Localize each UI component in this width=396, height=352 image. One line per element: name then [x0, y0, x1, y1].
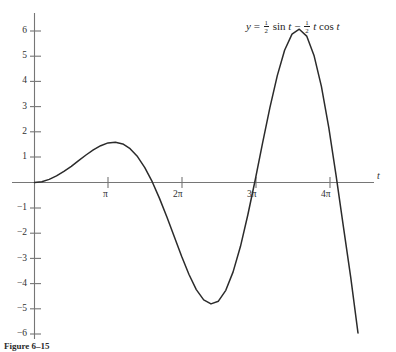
y-tick-label-neg-4: −4: [7, 278, 27, 288]
y-tick-label-5: 5: [14, 50, 27, 60]
y-tick-label-4: 4: [14, 75, 27, 85]
equation-half-1: 12: [264, 19, 269, 34]
x-tick-label-pi: π: [103, 189, 108, 199]
equation-annotation: y = 12 sin t − 12 t cos t: [246, 19, 340, 34]
equation-equals: =: [254, 20, 260, 32]
equation-minus: −: [294, 20, 300, 32]
function-curve: [35, 29, 359, 333]
equation-t3: t: [337, 20, 340, 32]
equation-half-2: 12: [304, 19, 309, 34]
y-tick-label-neg-2: −2: [7, 227, 27, 237]
figure-container: 6 5 4 3 2 1 −1 −2 −3 −4 −5 −6 π 2π 3π 4π…: [0, 0, 396, 352]
equation-t2: t: [313, 20, 316, 32]
figure-caption: Figure 6–15: [4, 341, 50, 351]
y-tick-label-neg-1: −1: [7, 202, 27, 212]
y-tick-label-3: 3: [14, 101, 27, 111]
equation-t1: t: [288, 20, 291, 32]
y-tick-label-2: 2: [14, 126, 27, 136]
x-tick-label-3pi: 3π: [247, 189, 257, 199]
y-tick-label-neg-5: −5: [7, 303, 27, 313]
y-tick-label-1: 1: [14, 151, 27, 161]
equation-y: y: [246, 20, 251, 32]
equation-cos: cos: [319, 20, 334, 32]
x-tick-label-2pi: 2π: [173, 189, 183, 199]
x-axis-label: t: [377, 170, 380, 181]
y-tick-label-neg-3: −3: [7, 253, 27, 263]
y-tick-label-6: 6: [14, 25, 27, 35]
plot-area: [0, 0, 396, 352]
y-tick-label-neg-6: −6: [7, 328, 27, 338]
equation-sin: sin: [273, 20, 286, 32]
x-tick-label-4pi: 4π: [321, 189, 331, 199]
